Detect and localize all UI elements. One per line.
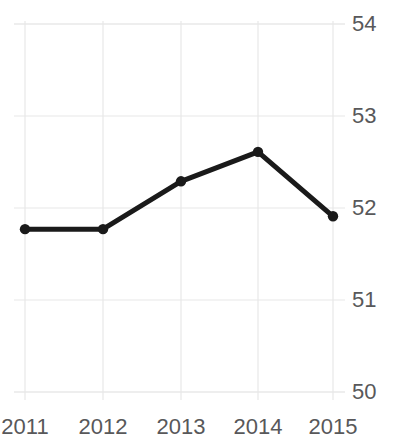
x-tick-label: 2013 [141, 416, 221, 438]
y-tick-label: 53 [352, 105, 398, 127]
x-tick-label: 2011 [0, 416, 65, 438]
plot-area [0, 0, 398, 400]
line-chart: Western Trend 5051525354 201120122013201… [0, 0, 398, 443]
data-point-marker[interactable] [176, 176, 186, 186]
plot-svg [0, 0, 398, 400]
series-line-western-trend [25, 152, 333, 229]
data-point-marker[interactable] [253, 147, 263, 157]
y-tick-label: 50 [352, 381, 398, 403]
data-point-marker[interactable] [20, 224, 30, 234]
data-point-markers [20, 147, 338, 235]
data-point-marker[interactable] [98, 224, 108, 234]
vertical-gridlines [25, 21, 333, 400]
y-tick-label: 51 [352, 289, 398, 311]
x-tick-label: 2014 [218, 416, 298, 438]
x-tick-label: 2012 [63, 416, 143, 438]
y-tick-label: 54 [352, 13, 398, 35]
x-tick-label: 2015 [293, 416, 373, 438]
series-polyline [25, 152, 333, 229]
data-point-marker[interactable] [328, 211, 338, 221]
y-tick-label: 52 [352, 197, 398, 219]
horizontal-gridlines [14, 24, 345, 392]
